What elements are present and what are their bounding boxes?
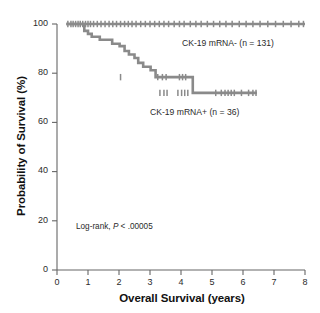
y-tick-label-0: 0 — [22, 264, 48, 274]
y-tick-label-100: 100 — [22, 18, 48, 28]
curve-label-ck19-positive: CK-19 mRNA+ (n = 36) — [150, 107, 239, 117]
x-tick-label-6: 6 — [235, 277, 251, 287]
survival-curve-ck19-positive — [66, 24, 257, 96]
x-tick-label-8: 8 — [297, 277, 313, 287]
log-rank-value: < .00005 — [118, 222, 152, 231]
x-tick-label-1: 1 — [80, 277, 96, 287]
x-tick-label-5: 5 — [204, 277, 220, 287]
survival-curve-ck19-negative — [66, 21, 305, 27]
x-tick-label-4: 4 — [173, 277, 189, 287]
log-rank-prefix: Log-rank, — [76, 222, 113, 231]
x-tick-label-0: 0 — [49, 277, 65, 287]
log-rank-annotation: Log-rank, P < .00005 — [76, 222, 153, 231]
x-axis-title: Overall Survival (years) — [57, 292, 307, 304]
x-tick-label-3: 3 — [142, 277, 158, 287]
curve-path — [66, 24, 257, 93]
axes — [52, 24, 305, 275]
x-axis-ticks — [57, 270, 305, 275]
kaplan-meier-figure: 100 80 60 40 20 0 0 1 2 3 4 5 6 7 8 Prob… — [0, 0, 320, 313]
survival-curves — [66, 21, 305, 96]
x-tick-label-7: 7 — [266, 277, 282, 287]
curve-label-ck19-negative: CK-19 mRNA- (n = 131) — [182, 38, 274, 48]
y-axis-title: Probability of Survival (%) — [15, 56, 27, 236]
y-axis-ticks — [52, 24, 57, 270]
x-tick-label-2: 2 — [111, 277, 127, 287]
